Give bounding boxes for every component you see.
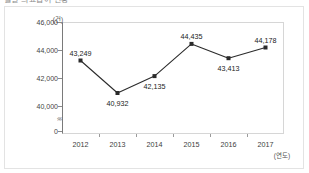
x-tick-label-2014: 2014 bbox=[135, 140, 175, 149]
x-tick-label-2016: 2016 bbox=[209, 140, 249, 149]
y-tick-label-0: 0 bbox=[24, 128, 58, 135]
x-tick-mark-2015 bbox=[210, 134, 211, 137]
data-label-2015: 44,435 bbox=[170, 32, 214, 41]
data-label-2013: 40,932 bbox=[96, 99, 140, 108]
data-label-2017: 44,178 bbox=[244, 36, 288, 45]
data-label-2016: 43,413 bbox=[207, 64, 251, 73]
x-tick-label-2013: 2013 bbox=[98, 140, 138, 149]
y-tick-mark-46000 bbox=[58, 22, 62, 23]
y-tick-label-44000: 44,000 bbox=[24, 47, 58, 54]
y-tick-mark-0 bbox=[58, 131, 62, 132]
x-axis-unit-label: (연도) bbox=[260, 150, 304, 160]
x-tick-mark-2014 bbox=[173, 134, 174, 137]
y-tick-label-42000: 42,000 bbox=[24, 75, 58, 82]
x-tick-label-2015: 2015 bbox=[172, 140, 212, 149]
x-tick-mark-2012 bbox=[99, 134, 100, 137]
y-axis-ticks: 46,000 44,000 42,000 40,000 0 bbox=[22, 0, 58, 173]
y-tick-mark-42000 bbox=[58, 78, 62, 79]
x-tick-label-2017: 2017 bbox=[246, 140, 286, 149]
chart-root: 월별 의료급여 현황 (건) 46,000 44,000 42,000 40,0… bbox=[0, 0, 309, 173]
y-tick-label-40000: 40,000 bbox=[24, 103, 58, 110]
data-label-2012: 43,249 bbox=[59, 49, 103, 58]
y-tick-mark-40000 bbox=[58, 106, 62, 107]
data-label-2014: 42,135 bbox=[133, 82, 177, 91]
x-tick-mark-2016 bbox=[247, 134, 248, 137]
y-tick-label-46000: 46,000 bbox=[24, 19, 58, 26]
x-tick-mark-2013 bbox=[136, 134, 137, 137]
x-tick-label-2012: 2012 bbox=[61, 140, 101, 149]
